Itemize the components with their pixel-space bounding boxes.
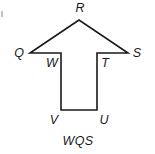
figure-screenshot: R Q W V U T S WQS <box>0 0 155 154</box>
vertex-label-w: W <box>46 56 59 70</box>
arrow-outline-path <box>30 20 128 110</box>
vertex-label-u: U <box>99 113 109 127</box>
vertex-label-t: T <box>101 56 110 70</box>
vertex-label-r: R <box>75 1 84 15</box>
figure-caption: WQS <box>63 134 94 148</box>
vertex-label-s: S <box>133 46 142 60</box>
vertex-label-v: V <box>50 113 60 127</box>
geometry-figure: R Q W V U T S WQS <box>0 0 155 154</box>
vertex-label-q: Q <box>14 46 24 60</box>
